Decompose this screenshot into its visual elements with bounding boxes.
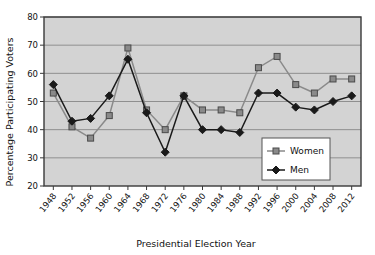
y-tick-label: 40 xyxy=(27,125,38,135)
y-tick-label: 30 xyxy=(27,153,38,163)
chart-container: 80706050403020 1948195219561960196419681… xyxy=(0,0,375,255)
legend-label: Women xyxy=(290,146,324,156)
legend-label: Men xyxy=(290,165,309,175)
x-axis-title: Presidential Election Year xyxy=(136,238,256,249)
voter-participation-line-chart: 80706050403020 1948195219561960196419681… xyxy=(0,0,375,255)
y-tick-label: 50 xyxy=(27,97,38,107)
chart-legend: WomenMen xyxy=(262,138,330,180)
y-axis-title: Percentage Participating Voters xyxy=(4,37,15,186)
y-tick-label: 20 xyxy=(27,181,38,191)
y-tick-label: 60 xyxy=(27,69,38,79)
y-tick-label: 80 xyxy=(27,12,38,22)
y-tick-label: 70 xyxy=(27,40,38,50)
